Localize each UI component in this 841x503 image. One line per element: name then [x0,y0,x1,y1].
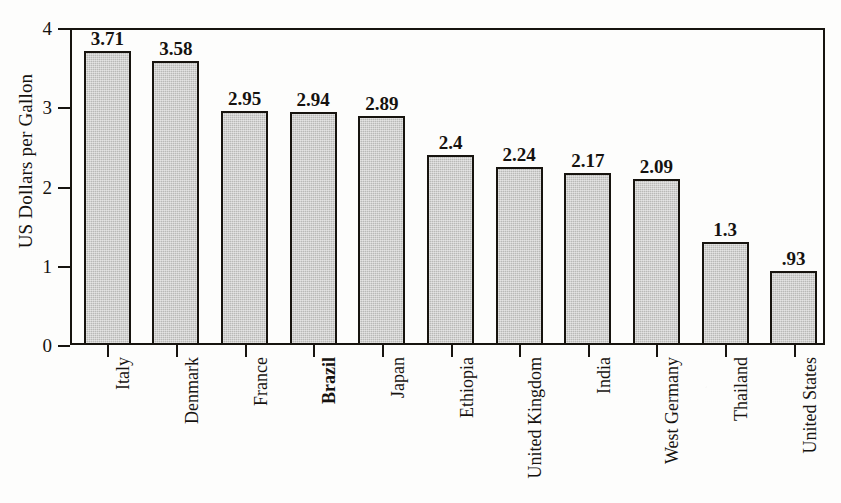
bar: 2.24 [496,167,543,345]
bar-value-label: 2.09 [640,156,673,178]
x-axis-category-labels: ItalyDenmarkFranceBrazilJapanEthiopiaUni… [70,357,825,503]
x-tick [107,345,109,357]
x-axis-label-france: France [252,357,270,503]
y-axis-title: US Dollars per Gallon [15,31,37,291]
y-tick-1: 1 [58,266,70,268]
bar-value-label: 2.95 [228,88,261,110]
x-tick [451,345,453,357]
x-axis-label-ethiopia: Ethiopia [458,357,476,503]
y-tick-label: 2 [43,177,53,199]
x-tick [313,345,315,357]
x-tick [794,345,796,357]
y-tick-0: 0 [58,345,70,347]
x-tick [245,345,247,357]
bar: 2.09 [633,179,680,345]
y-tick-4: 4 [58,28,70,30]
bar-value-label: 2.94 [297,89,330,111]
bar-series: 3.713.582.952.942.892.42.242.172.091.3.9… [70,28,825,345]
bar: 2.4 [427,155,474,345]
x-tick [725,345,727,357]
bar-value-label: 2.4 [439,132,463,154]
y-tick-label: 0 [43,335,53,357]
y-tick-label: 3 [43,97,53,119]
x-axis-label-italy: Italy [114,357,132,503]
y-tick-label: 1 [43,256,53,278]
y-tick-3: 3 [58,107,70,109]
bar: 3.58 [152,61,199,345]
bar-value-label: 2.17 [571,150,604,172]
x-axis-label-india: India [595,357,613,503]
bar: .93 [770,271,817,345]
bar: 3.71 [84,51,131,345]
x-tick [382,345,384,357]
x-tick [588,345,590,357]
x-axis-label-united-kingdom: United Kingdom [526,357,544,503]
bar-value-label: .93 [782,248,806,270]
y-tick-label: 4 [43,18,53,40]
bar: 2.89 [358,116,405,345]
x-tick [656,345,658,357]
bar-value-label: 2.89 [365,93,398,115]
x-axis-label-brazil: Brazil [320,357,338,503]
bar-value-label: 3.58 [159,38,192,60]
bar-value-label: 1.3 [713,219,737,241]
bar-value-label: 3.71 [91,28,124,50]
bar: 1.3 [702,242,749,345]
x-axis-label-japan: Japan [389,357,407,503]
x-axis-label-denmark: Denmark [183,357,201,503]
x-axis-label-thailand: Thailand [732,357,750,503]
bar: 2.17 [564,173,611,345]
x-tick [176,345,178,357]
y-tick-2: 2 [58,187,70,189]
bar: 2.94 [290,112,337,345]
bar: 2.95 [221,111,268,345]
x-tick [519,345,521,357]
x-axis-label-west-germany: West Germany [663,357,681,503]
bar-chart: US Dollars per Gallon 01234 3.713.582.95… [0,0,841,503]
x-axis-label-united-states: United States [801,357,819,503]
bar-value-label: 2.24 [503,144,536,166]
